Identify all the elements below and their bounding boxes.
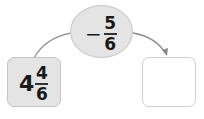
operation-denominator: 6 xyxy=(104,36,116,53)
start-value-box: 4 4 6 xyxy=(7,57,61,107)
operation-numerator: 5 xyxy=(104,15,116,32)
operation-bubble: − 5 6 xyxy=(70,5,133,58)
result-answer-box[interactable] xyxy=(142,57,196,107)
operation-fraction: 5 6 xyxy=(104,15,117,53)
start-numerator: 4 xyxy=(36,65,48,82)
connector-right xyxy=(133,33,166,54)
minus-sign: − xyxy=(85,22,102,46)
connector-left xyxy=(34,33,71,58)
start-whole: 4 xyxy=(19,71,34,96)
start-denominator: 6 xyxy=(36,86,48,103)
start-fraction: 4 6 xyxy=(35,65,48,103)
